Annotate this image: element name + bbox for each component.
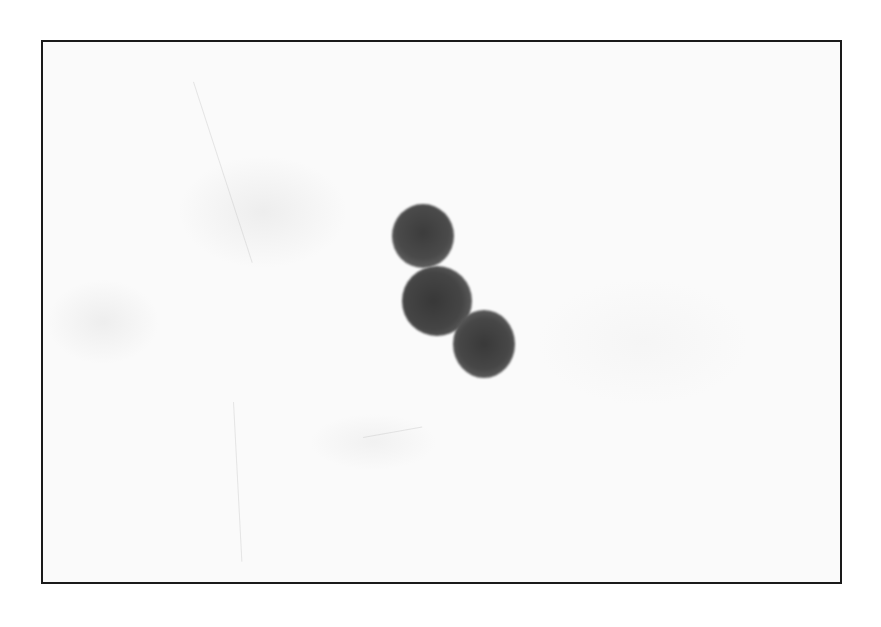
micrograph-frame <box>41 40 842 584</box>
cell-top <box>392 204 454 268</box>
cell-bottom <box>453 310 515 378</box>
